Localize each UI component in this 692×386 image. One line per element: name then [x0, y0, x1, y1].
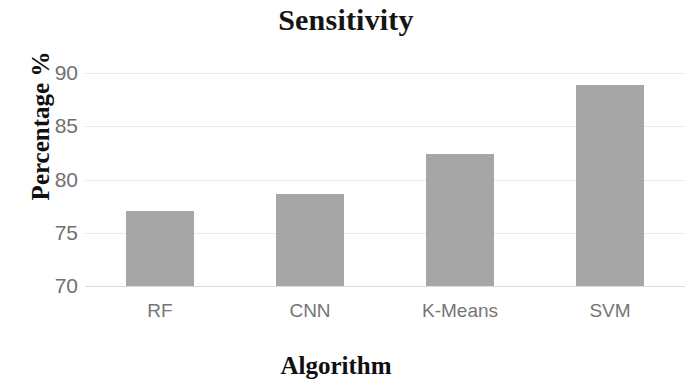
y-tick-label: 80 [32, 169, 78, 190]
x-axis-tick-labels: RFCNNK-MeansSVM [85, 300, 685, 326]
bar-k-means [426, 154, 494, 286]
y-tick-label: 90 [32, 62, 78, 83]
y-tick-label: 85 [32, 115, 78, 136]
bar-svm [576, 85, 644, 286]
x-tick-label: CNN [235, 300, 385, 322]
x-tick-label: SVM [535, 300, 685, 322]
chart-title: Sensitivity [0, 2, 692, 38]
y-axis-tick-labels: 7075808590 [24, 0, 78, 386]
gridline [85, 286, 685, 287]
x-tick-label: RF [85, 300, 235, 322]
y-tick-label: 70 [32, 275, 78, 296]
x-tick-label: K-Means [385, 300, 535, 322]
x-axis-title: Algorithm [0, 352, 672, 380]
bar-rf [126, 211, 194, 286]
y-tick-label: 75 [32, 222, 78, 243]
plot-area [85, 73, 685, 286]
bar-chart-figure: Sensitivity Percentage % 7075808590 RFCN… [0, 0, 692, 386]
gridline [85, 73, 685, 74]
bar-cnn [276, 194, 344, 286]
